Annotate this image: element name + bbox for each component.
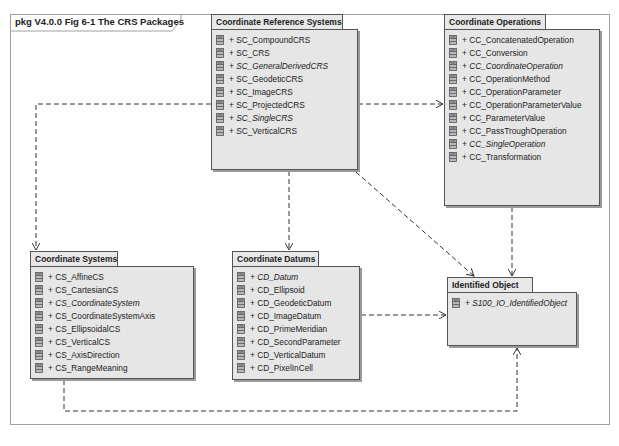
class-item[interactable]: + SC_CompoundCRS [212,33,357,46]
class-item[interactable]: + CD_Ellipsoid [233,283,359,296]
class-name: + CC_SingleOperation [462,139,545,149]
class-name: + CC_PassTroughOperation [462,126,567,136]
class-item[interactable]: + SC_ProjectedCRS [212,98,357,111]
class-name: + CS_CoordinateSystemAxis [48,311,155,321]
class-name: + CS_EllipsoidalCS [48,324,120,334]
class-item[interactable]: + CC_Conversion [445,46,599,59]
class-item[interactable]: + CS_VerticalCS [31,335,193,348]
class-icon [449,113,457,123]
class-item[interactable]: + SC_ImageCRS [212,85,357,98]
class-name: + CC_OperationParameter [462,87,561,97]
class-icon [449,100,457,110]
class-icon [216,61,224,71]
class-item[interactable]: + CC_OperationParameter [445,85,599,98]
class-item[interactable]: + CC_OperationMethod [445,72,599,85]
class-icon [216,35,224,45]
class-item[interactable]: + CS_CoordinateSystem [31,296,193,309]
class-item[interactable]: + CC_ParameterValue [445,111,599,124]
class-icon [35,363,43,373]
class-icon [449,87,457,97]
class-icon [35,350,43,360]
class-icon [216,126,224,136]
class-name: + CC_OperationMethod [462,74,550,84]
class-name: + SC_GeneralDerivedCRS [229,61,328,71]
class-icon [216,48,224,58]
class-name: + SC_CompoundCRS [229,35,310,45]
class-icon [237,311,245,321]
class-item[interactable]: + SC_GeodeticCRS [212,72,357,85]
class-icon [449,48,457,58]
class-name: + CS_CartesianCS [48,285,118,295]
diagram-canvas: pkg V4.0.0 Fig 6-1 The CRS Packages Coor… [0,0,619,446]
class-name: + CS_RangeMeaning [48,363,128,373]
class-name: + SC_SingleCRS [229,113,293,123]
class-name: + SC_ProjectedCRS [229,100,305,110]
class-name: + CC_ConcatenatedOperation [462,35,574,45]
class-item[interactable]: + S100_IO_IdentifiedObject [448,296,576,309]
class-name: + SC_CRS [229,48,270,58]
class-name: + SC_GeodeticCRS [229,74,303,84]
package-tab: Coordinate Systems [30,251,118,266]
class-icon [449,61,457,71]
class-name: + CD_GeodeticDatum [250,298,331,308]
class-icon [449,35,457,45]
class-name: + CD_PixelInCell [250,363,313,373]
class-icon [449,139,457,149]
class-name: + CS_CoordinateSystem [48,298,140,308]
package-tab: Identified Object [447,277,533,292]
class-icon [216,100,224,110]
class-item[interactable]: + CD_ImageDatum [233,309,359,322]
class-icon [237,324,245,334]
class-icon [237,337,245,347]
class-icon [449,126,457,136]
class-icon [35,337,43,347]
class-item[interactable]: + SC_VerticalCRS [212,124,357,137]
class-icon [216,113,224,123]
class-item[interactable]: + CS_AxisDirection [31,348,193,361]
class-icon [216,87,224,97]
class-icon [35,311,43,321]
class-item[interactable]: + CD_Datum [233,270,359,283]
class-item[interactable]: + CD_SecondParameter [233,335,359,348]
class-item[interactable]: + CD_VerticalDatum [233,348,359,361]
class-name: + S100_IO_IdentifiedObject [465,298,567,308]
package-body: + SC_CompoundCRS + SC_CRS + SC_GeneralDe… [211,29,358,170]
class-icon [449,152,457,162]
class-item[interactable]: + CC_PassTroughOperation [445,124,599,137]
class-name: + CC_ParameterValue [462,113,545,123]
package-body: + CS_AffineCS + CS_CartesianCS + CS_Coor… [30,266,194,379]
class-item[interactable]: + CD_PixelInCell [233,361,359,374]
class-item[interactable]: + CD_PrimeMeridian [233,322,359,335]
class-item[interactable]: + CS_CartesianCS [31,283,193,296]
package-tab: Coordinate Reference Systems [211,14,343,29]
class-item[interactable]: + CC_ConcatenatedOperation [445,33,599,46]
class-item[interactable]: + SC_GeneralDerivedCRS [212,59,357,72]
class-icon [237,298,245,308]
class-name: + CC_OperationParameterValue [462,100,582,110]
package-body: + CC_ConcatenatedOperation + CC_Conversi… [444,29,600,206]
class-icon [237,363,245,373]
package-tab: Coordinate Datums [232,251,319,266]
class-name: + CC_CoordinateOperation [462,61,563,71]
class-item[interactable]: + CC_CoordinateOperation [445,59,599,72]
package-tab: Coordinate Operations [444,14,546,29]
class-item[interactable]: + CD_GeodeticDatum [233,296,359,309]
class-item[interactable]: + CC_OperationParameterValue [445,98,599,111]
class-item[interactable]: + SC_SingleCRS [212,111,357,124]
class-item[interactable]: + SC_CRS [212,46,357,59]
class-icon [452,298,460,308]
class-item[interactable]: + CS_CoordinateSystemAxis [31,309,193,322]
class-icon [237,285,245,295]
class-name: + CS_AxisDirection [48,350,120,360]
class-icon [35,298,43,308]
class-name: + CC_Transformation [462,152,541,162]
class-name: + CD_VerticalDatum [250,350,325,360]
class-name: + CD_ImageDatum [250,311,321,321]
class-item[interactable]: + CS_EllipsoidalCS [31,322,193,335]
class-name: + SC_VerticalCRS [229,126,297,136]
class-item[interactable]: + CS_RangeMeaning [31,361,193,374]
class-item[interactable]: + CC_SingleOperation [445,137,599,150]
class-item[interactable]: + CC_Transformation [445,150,599,163]
class-item[interactable]: + CS_AffineCS [31,270,193,283]
class-icon [35,285,43,295]
